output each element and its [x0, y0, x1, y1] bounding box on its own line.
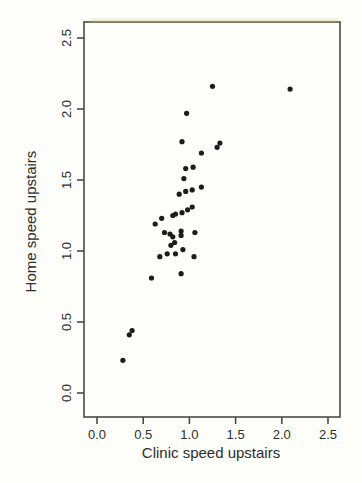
y-tick-label: 0.5 [59, 313, 74, 331]
scatter-plot-svg: 0.00.51.01.52.02.5 0.00.51.01.52.02.5 Cl… [0, 0, 362, 483]
data-point [185, 207, 190, 212]
y-tick-label: 2.5 [59, 29, 74, 47]
data-point [173, 212, 178, 217]
data-point [165, 251, 170, 256]
y-tick-label: 0.0 [59, 384, 74, 402]
data-point [179, 210, 184, 215]
data-point [167, 231, 172, 236]
data-point [149, 275, 154, 280]
data-point [153, 221, 158, 226]
x-tick-label: 0.0 [88, 427, 106, 442]
x-tick-label: 2.0 [273, 427, 291, 442]
data-point [191, 165, 196, 170]
data-point [288, 87, 293, 92]
data-point [190, 187, 195, 192]
data-point [172, 240, 177, 245]
data-point [181, 176, 186, 181]
data-point [157, 254, 162, 259]
y-axis-ticks [77, 38, 84, 393]
data-point [190, 204, 195, 209]
y-tick-label: 1.5 [59, 171, 74, 189]
data-point [180, 247, 185, 252]
data-point [192, 230, 197, 235]
data-point [179, 139, 184, 144]
data-point [159, 216, 164, 221]
y-axis-title: Home speed upstairs [22, 151, 39, 293]
y-tick-label: 1.0 [59, 242, 74, 260]
x-tick-label: 1.0 [180, 427, 198, 442]
data-point [173, 251, 178, 256]
y-tick-label: 2.0 [59, 100, 74, 118]
data-point [130, 328, 135, 333]
data-point [199, 150, 204, 155]
x-axis-tick-labels: 0.00.51.01.52.02.5 [88, 427, 337, 442]
x-tick-label: 2.5 [319, 427, 337, 442]
data-point [199, 185, 204, 190]
scan-artifact-strip [90, 19, 338, 22]
data-point [179, 271, 184, 276]
data-point [217, 141, 222, 146]
data-point [177, 192, 182, 197]
x-axis-title: Clinic speed upstairs [142, 444, 280, 461]
data-point [127, 332, 132, 337]
data-point [183, 166, 188, 171]
x-tick-label: 0.5 [134, 427, 152, 442]
x-tick-label: 1.5 [227, 427, 245, 442]
data-points-group [120, 84, 292, 363]
data-point [183, 189, 188, 194]
data-point [179, 229, 184, 234]
y-axis-tick-labels: 0.00.51.01.52.02.5 [59, 29, 74, 402]
data-point [184, 111, 189, 116]
data-point [210, 84, 215, 89]
data-point [162, 230, 167, 235]
x-axis-ticks [97, 417, 328, 424]
scatter-plot-figure: 0.00.51.01.52.02.5 0.00.51.01.52.02.5 Cl… [0, 0, 362, 483]
data-point [120, 358, 125, 363]
data-point [191, 254, 196, 259]
